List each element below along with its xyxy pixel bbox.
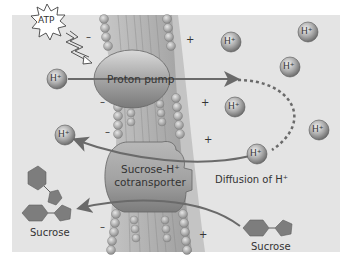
plus-sign: + bbox=[201, 98, 209, 108]
sucrose-right-label: Sucrose bbox=[251, 242, 291, 252]
h-ion-label: H⁺ bbox=[228, 102, 240, 111]
minus-sign: – bbox=[100, 97, 105, 107]
atp-label: ATP bbox=[38, 16, 54, 25]
h-ion-label: H⁺ bbox=[250, 149, 262, 158]
diagram-canvas bbox=[0, 0, 350, 261]
h-ion-label: H⁺ bbox=[312, 125, 324, 134]
plus-sign: + bbox=[204, 135, 212, 145]
cotransporter-label-line1: Sucrose-H⁺ bbox=[121, 164, 179, 175]
h-ion-label: H⁺ bbox=[301, 27, 313, 36]
plus-sign: + bbox=[199, 230, 207, 240]
minus-sign: – bbox=[105, 127, 110, 137]
minus-sign: – bbox=[86, 32, 91, 42]
plus-sign: + bbox=[186, 35, 194, 45]
h-ion-label: H⁺ bbox=[283, 62, 295, 71]
minus-sign: – bbox=[100, 222, 105, 232]
h-ion-label: H⁺ bbox=[50, 74, 62, 83]
cotransporter-label-line2: cotransporter bbox=[113, 177, 187, 188]
proton-pump-label: Proton pump bbox=[107, 74, 174, 85]
h-ion-label: H⁺ bbox=[58, 130, 70, 139]
h-ion-label: H⁺ bbox=[224, 37, 236, 46]
diffusion-label: Diffusion of H⁺ bbox=[215, 175, 288, 185]
sucrose-left-label: Sucrose bbox=[30, 228, 70, 238]
